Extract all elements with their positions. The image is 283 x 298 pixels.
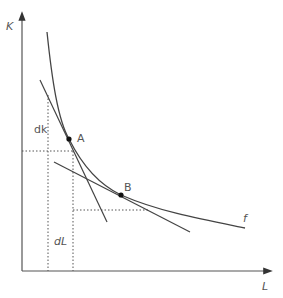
l-axis-label: L [262, 280, 268, 293]
point-b-label: B [124, 181, 132, 194]
point-a [66, 136, 71, 141]
point-b [118, 192, 123, 197]
curve-label: f [243, 212, 249, 225]
diagram-svg: K L L A B dk dL f L [0, 0, 283, 298]
dk-label: dk [34, 123, 48, 136]
point-a-label: A [77, 132, 85, 145]
y-axis-label: K [6, 20, 14, 33]
isoquant-curve [47, 32, 245, 228]
dl-label: dL [54, 235, 67, 248]
isoquant-diagram: K L L A B dk dL f L [0, 0, 283, 298]
